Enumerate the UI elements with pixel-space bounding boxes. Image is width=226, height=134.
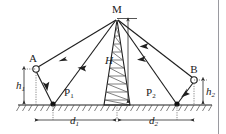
label-H: H bbox=[104, 54, 114, 66]
point-a-marker bbox=[33, 66, 39, 72]
label-M: M bbox=[112, 3, 122, 15]
figure-container: H h1 h2 d1 d2 M A B P1 P2 bbox=[0, 0, 226, 134]
label-h1-sub: 1 bbox=[22, 85, 26, 93]
label-h2-sub: 2 bbox=[212, 91, 216, 99]
label-A: A bbox=[29, 52, 37, 64]
label-P1-sub: 1 bbox=[70, 92, 74, 100]
label-B: B bbox=[190, 63, 197, 75]
label-P2-sub: 2 bbox=[152, 92, 156, 100]
diagram-canvas: H h1 h2 d1 d2 M A B P1 P2 bbox=[0, 0, 226, 134]
label-d2-sub: 2 bbox=[155, 120, 159, 128]
label-d1-sub: 1 bbox=[76, 120, 80, 128]
